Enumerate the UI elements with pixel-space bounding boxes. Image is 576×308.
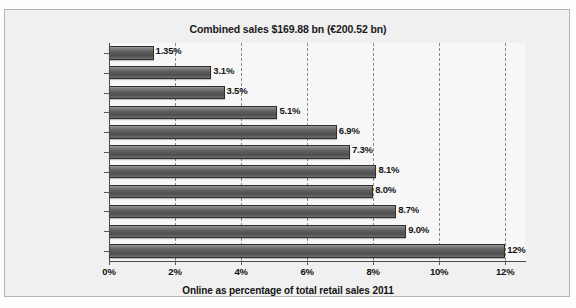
bar-value-label: 5.1%: [279, 105, 300, 116]
chart-figure: Combined sales $169.88 bn (€200.52 bn) 1…: [0, 0, 576, 308]
x-axis-tick-label-2pct: 2%: [145, 266, 205, 277]
bar-row: 1.35%Italy: [109, 43, 525, 63]
x-axis-tick: [505, 261, 506, 265]
bar-row: 7.3%France: [109, 142, 525, 162]
bar-france[interactable]: [109, 145, 350, 158]
bar-value-label: 8.0%: [375, 184, 396, 195]
x-axis-tick-label-0pct: 0%: [79, 266, 139, 277]
x-axis-line: [109, 261, 526, 262]
x-axis-tick-label-10pct: 10%: [409, 266, 469, 277]
x-axis-tick: [307, 261, 308, 265]
bar-row: 8.0%Denmark: [109, 182, 525, 202]
x-axis-tick: [241, 261, 242, 265]
bar-row: 3.1%Poland: [109, 63, 525, 83]
bar-value-label: 1.35%: [156, 45, 182, 56]
bar-row: 5.1%Benelux (NL, B, Lux): [109, 102, 525, 122]
x-axis-tick-label-12pct: 12%: [475, 266, 535, 277]
bar-value-label: 7.3%: [352, 144, 373, 155]
bar-spain[interactable]: [109, 86, 225, 99]
bar-value-label: 8.7%: [398, 204, 419, 215]
bar-sweden[interactable]: [109, 125, 337, 138]
x-axis-title: Online as percentage of total retail sal…: [5, 285, 571, 296]
chart-frame: Combined sales $169.88 bn (€200.52 bn) 1…: [4, 9, 570, 297]
x-axis-tick-label-4pct: 4%: [211, 266, 271, 277]
bar-germany[interactable]: [109, 225, 406, 238]
x-axis-tick-label-8pct: 8%: [343, 266, 403, 277]
x-axis-tick: [439, 261, 440, 265]
bar-row: 9.0%Germany: [109, 221, 525, 241]
chart-title: Combined sales $169.88 bn (€200.52 bn): [5, 23, 571, 35]
bar-row: 3.5%Spain: [109, 83, 525, 103]
clipped-caption-above-chart: [0, 0, 576, 9]
bar-benelux-nl-b-lux[interactable]: [109, 106, 277, 119]
bar-row: 6.9%Sweden: [109, 122, 525, 142]
bar-switzerland[interactable]: [109, 205, 396, 218]
bar-value-label: 8.1%: [378, 164, 399, 175]
x-axis-tick: [109, 261, 110, 265]
bar-value-label: 3.5%: [227, 85, 248, 96]
bar-series: 1.35%Italy3.1%Poland3.5%Spain5.1%Benelux…: [109, 43, 525, 261]
y-axis-line: [109, 43, 110, 262]
x-axis-tick: [175, 261, 176, 265]
bar-value-label: 12%: [507, 244, 525, 255]
bar-row: 12%UK: [109, 241, 525, 261]
bar-norway[interactable]: [109, 165, 376, 178]
bar-value-label: 3.1%: [213, 65, 234, 76]
x-axis-tick-label-6pct: 6%: [277, 266, 337, 277]
plot-area: 1.35%Italy3.1%Poland3.5%Spain5.1%Benelux…: [109, 43, 525, 261]
bar-row: 8.1%Norway: [109, 162, 525, 182]
bar-row: 8.7%Switzerland: [109, 202, 525, 222]
bar-denmark[interactable]: [109, 185, 373, 198]
bar-value-label: 9.0%: [408, 224, 429, 235]
bar-uk[interactable]: [109, 244, 505, 257]
bar-poland[interactable]: [109, 66, 211, 79]
bar-italy[interactable]: [109, 46, 154, 59]
x-axis-tick: [373, 261, 374, 265]
bar-value-label: 6.9%: [339, 125, 360, 136]
